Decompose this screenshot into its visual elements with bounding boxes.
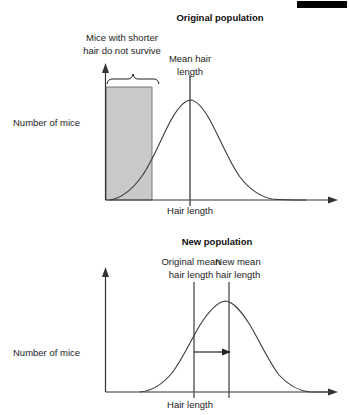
x-axis-arrowhead-top xyxy=(328,196,338,203)
annotation-mean-hair-length-line2: length xyxy=(150,66,230,79)
annotation-nonsurvivors-label-line1: Mice with shorter xyxy=(62,32,182,45)
figure-root: Original population Mice with shorter ha… xyxy=(0,0,349,415)
x-axis-label-new-population: Hair length xyxy=(150,399,230,412)
x-axis-label-original-population: Hair length xyxy=(150,205,230,218)
y-axis-label-original-population: Number of mice xyxy=(13,117,80,130)
chart-title-new-population: New population xyxy=(162,236,272,248)
y-axis-arrowhead-top xyxy=(102,63,109,73)
chart-new-population xyxy=(102,267,338,398)
shaded-region-nonsurvivors xyxy=(106,87,152,200)
new-population-curve xyxy=(140,301,330,392)
annotation-mean-hair-length-line1: Mean hair xyxy=(150,53,230,66)
y-axis-arrowhead-bottom xyxy=(102,267,109,277)
annotation-new-mean-label-line1: New mean xyxy=(192,256,284,269)
annotation-new-mean-label-line2: hair length xyxy=(192,269,284,282)
y-axis-label-new-population: Number of mice xyxy=(13,347,80,360)
chart-original-population xyxy=(102,63,338,206)
chart-title-original-population: Original population xyxy=(160,12,280,24)
